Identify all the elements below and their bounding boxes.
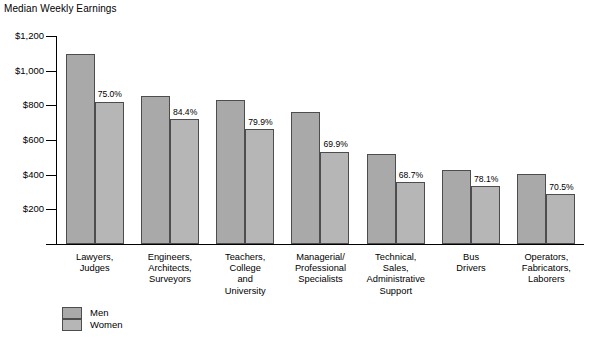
plot-area: 75.0%84.4%79.9%69.9%68.7%78.1%70.5% (57, 36, 584, 244)
x-axis-line (46, 244, 584, 245)
bar-ratio-label: 69.9% (323, 140, 347, 149)
bar-men (367, 154, 396, 244)
bar-men (442, 170, 471, 244)
y-axis-tick-label: $400 (0, 170, 44, 180)
y-axis-tick (46, 140, 56, 141)
legend-swatch-men (62, 307, 82, 319)
x-axis-label-line: University (208, 286, 283, 297)
x-axis-category-label: Teachers,CollegeandUniversity (208, 252, 283, 297)
legend-label-women: Women (90, 319, 123, 331)
bar-women (320, 152, 349, 244)
bar-ratio-label: 79.9% (248, 118, 272, 127)
x-axis-label-line: College (208, 263, 283, 274)
y-axis-tick (46, 175, 56, 176)
x-axis-label-line: Engineers, (132, 252, 207, 263)
x-axis-label-line: Laborers (509, 274, 584, 285)
y-axis-tick-label: $1,200 (0, 31, 44, 41)
bar-men (141, 96, 170, 244)
chart-container: Median Weekly Earnings $1,200$1,000$800$… (0, 0, 595, 350)
bar-ratio-label: 68.7% (399, 171, 423, 180)
x-axis-label-line: Drivers (433, 263, 508, 274)
bar-ratio-label: 84.4% (173, 108, 197, 117)
x-axis-category-labels: Lawyers,JudgesEngineers,Architects,Surve… (57, 252, 584, 308)
x-axis-label-line: Professional (283, 263, 358, 274)
x-axis-label-line: Sales, (358, 263, 433, 274)
y-axis-tick (46, 209, 56, 210)
bar-women (471, 186, 500, 244)
x-axis-category-label: BusDrivers (433, 252, 508, 274)
x-axis-label-line: and (208, 274, 283, 285)
bar-group: 69.9% (283, 36, 358, 244)
bar-group: 75.0% (57, 36, 132, 244)
legend-swatch-women (62, 319, 82, 331)
x-axis-category-label: Technical,Sales,AdministrativeSupport (358, 252, 433, 297)
x-axis-label-line: Specialists (283, 274, 358, 285)
bar-group: 70.5% (509, 36, 584, 244)
bar-men (216, 100, 245, 244)
bar-women (245, 129, 274, 244)
bar-group: 68.7% (358, 36, 433, 244)
y-axis-tick-label: $800 (0, 100, 44, 110)
x-axis-label-line: Fabricators, (509, 263, 584, 274)
x-axis-label-line: Support (358, 286, 433, 297)
x-axis-label-line: Technical, (358, 252, 433, 263)
chart-title: Median Weekly Earnings (4, 3, 117, 14)
y-axis-tick-label: $1,000 (0, 66, 44, 76)
y-axis-tick-label: $200 (0, 204, 44, 214)
x-axis-label-line: Operators, (509, 252, 584, 263)
bar-women (95, 102, 124, 244)
bar-men (291, 112, 320, 244)
legend-label-men: Men (90, 307, 108, 319)
x-axis-category-label: Engineers,Architects,Surveyors (132, 252, 207, 286)
x-axis-category-label: Operators,Fabricators,Laborers (509, 252, 584, 286)
bar-group: 78.1% (433, 36, 508, 244)
x-axis-category-label: Managerial/ProfessionalSpecialists (283, 252, 358, 286)
y-axis-tick (46, 71, 56, 72)
x-axis-label-line: Architects, (132, 263, 207, 274)
x-axis-label-line: Administrative (358, 274, 433, 285)
x-axis-label-line: Bus (433, 252, 508, 263)
bar-men (66, 54, 95, 244)
bar-men (517, 174, 546, 244)
x-axis-label-line: Lawyers, (57, 252, 132, 263)
x-axis-label-line: Judges (57, 263, 132, 274)
bar-ratio-label: 78.1% (474, 175, 498, 184)
y-axis-tick (46, 36, 56, 37)
x-axis-category-label: Lawyers,Judges (57, 252, 132, 274)
x-axis-label-line: Managerial/ (283, 252, 358, 263)
y-axis-tick-label: $600 (0, 135, 44, 145)
bar-women (546, 194, 575, 244)
bar-group: 84.4% (132, 36, 207, 244)
x-axis-label-line: Surveyors (132, 274, 207, 285)
bar-ratio-label: 70.5% (549, 183, 573, 192)
bar-women (170, 119, 199, 244)
bar-ratio-label: 75.0% (98, 90, 122, 99)
bar-women (396, 182, 425, 244)
y-axis-tick (46, 105, 56, 106)
bar-group: 79.9% (208, 36, 283, 244)
x-axis-label-line: Teachers, (208, 252, 283, 263)
